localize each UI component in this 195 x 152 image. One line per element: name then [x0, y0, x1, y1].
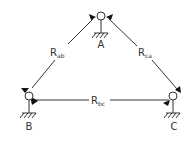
- node-label-b: B: [26, 121, 33, 132]
- edge-label-rbc: Rbc: [91, 95, 105, 107]
- arrowhead-icon: [163, 100, 170, 106]
- edge-label-rab: Rab: [50, 47, 65, 59]
- node-circle-icon: [169, 92, 177, 100]
- node-b: [20, 92, 36, 118]
- node-circle-icon: [97, 12, 105, 20]
- node-label-c: C: [171, 121, 178, 132]
- ground-icon: [164, 113, 180, 118]
- network-diagram: Rab Rca Rbc A: [0, 0, 195, 152]
- ground-icon: [20, 113, 36, 118]
- node-label-a: A: [98, 39, 105, 50]
- ground-icon: [92, 33, 108, 38]
- node-a: [92, 12, 108, 38]
- node-circle-icon: [25, 92, 33, 100]
- edge-label-rca: Rca: [138, 47, 152, 59]
